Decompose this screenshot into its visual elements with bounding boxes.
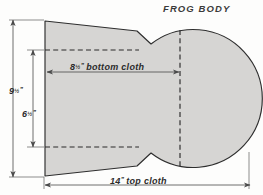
diagram-title: FROG BODY <box>163 3 231 14</box>
top-cloth-label: 14”top cloth <box>110 176 167 186</box>
inner-height-label: 6½” <box>22 109 37 119</box>
pattern-shape-group <box>45 21 262 176</box>
inner-height-dimension-group: 6½” <box>22 50 44 147</box>
overall-height-dimension-group: 9½” <box>9 20 44 177</box>
frog-body-pattern-diagram: 9½” 6½” 8½”bottom cloth 14”top cloth <box>0 0 263 195</box>
pattern-drawing-canvas: 9½” 6½” 8½”bottom cloth 14”top cloth <box>0 0 263 195</box>
frog-body-outline <box>45 21 262 176</box>
overall-height-label: 9½” <box>9 86 24 96</box>
